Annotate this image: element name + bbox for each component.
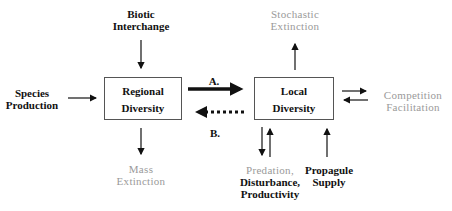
propagule-line1: Propagule [302, 164, 356, 176]
biotic-line2: Interchange [101, 20, 181, 32]
edge-label-a: A. [204, 75, 224, 87]
competition-line2: Facilitation [374, 101, 452, 113]
species-production-label: Species Production [2, 87, 62, 111]
mass-line1: Mass [101, 163, 181, 175]
species-line2: Production [2, 99, 62, 111]
predation-disturbance-productivity-label: Predation, Disturbance, Productivity [230, 164, 310, 200]
regional-label-1: Regional [105, 85, 181, 97]
local-label-1: Local [255, 85, 333, 97]
competition-facilitation-label: Competition Facilitation [374, 89, 452, 113]
competition-line1: Competition [374, 89, 452, 101]
mass-extinction-label: Mass Extinction [101, 163, 181, 187]
biotic-interchange-label: Biotic Interchange [101, 8, 181, 32]
mass-line2: Extinction [101, 175, 181, 187]
local-label-2: Diversity [255, 102, 333, 114]
species-line1: Species [2, 87, 62, 99]
regional-label-2: Diversity [105, 102, 181, 114]
propagule-line2: Supply [302, 176, 356, 188]
stochastic-line2: Extinction [255, 20, 335, 32]
predation-line1: Predation, [230, 164, 310, 176]
edge-label-b: B. [205, 127, 225, 139]
regional-diversity-node: Regional Diversity [104, 77, 182, 120]
stochastic-extinction-label: Stochastic Extinction [255, 8, 335, 32]
productivity-line: Productivity [230, 188, 310, 200]
stochastic-line1: Stochastic [255, 8, 335, 20]
local-diversity-node: Local Diversity [254, 77, 334, 120]
biotic-line1: Biotic [101, 8, 181, 20]
propagule-supply-label: Propagule Supply [302, 164, 356, 188]
disturbance-line: Disturbance, [230, 176, 310, 188]
